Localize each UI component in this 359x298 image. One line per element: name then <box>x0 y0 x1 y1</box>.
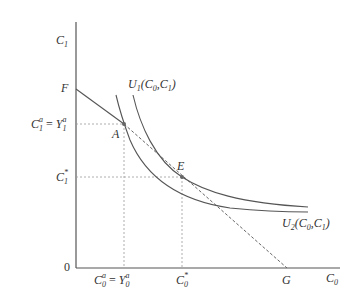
point-f-label: F <box>60 81 69 95</box>
budget-line-solid <box>76 89 124 124</box>
indifference-curve-u2 <box>116 95 308 212</box>
point-e-label: E <box>176 159 185 173</box>
y-tick-optimal-label: C1* <box>56 168 68 186</box>
indifference-curve-diagram: C1 C0 0 F A E G U1(C0,C1) U2(C0,C1) C1a … <box>0 0 359 298</box>
x-tick-endowment-label: C0a = Y0a <box>94 271 129 289</box>
y-axis-label: C1 <box>56 33 68 49</box>
point-e-marker <box>180 175 184 179</box>
point-a-marker <box>122 122 126 126</box>
point-a-label: A <box>111 127 120 141</box>
y-tick-endowment-label: C1a = Y1a <box>31 115 66 133</box>
x-axis-label: C0 <box>326 271 338 287</box>
curve-u1-label: U1(C0,C1) <box>128 77 176 93</box>
point-g-label: G <box>282 273 291 287</box>
origin-label: 0 <box>64 260 70 274</box>
curve-u2-label: U2(C0,C1) <box>282 216 330 232</box>
budget-line-dashed <box>124 124 287 268</box>
x-tick-optimal-label: C0* <box>176 271 188 289</box>
indifference-curve-u1 <box>133 95 308 207</box>
